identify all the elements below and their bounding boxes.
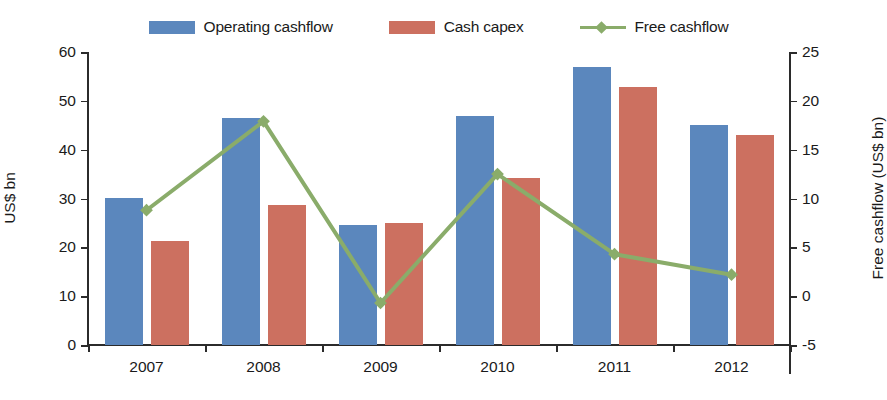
plot-area: 0102030405060 -50510152025 2007200820092… [88, 52, 790, 345]
right-tick-label: 20 [802, 92, 842, 110]
left-tick-mark [81, 52, 88, 54]
x-tick-label-2009: 2009 [363, 358, 397, 376]
legend-cash-capex[interactable]: Cash capex [389, 18, 524, 36]
left-tick-label: 10 [30, 287, 76, 305]
x-tick-mark [205, 345, 207, 352]
left-tick-mark [81, 150, 88, 152]
right-tick-mark [790, 52, 797, 54]
x-tick-label-2007: 2007 [129, 358, 163, 376]
x-tick-label-2011: 2011 [598, 358, 631, 376]
x-tick-mark [322, 345, 324, 352]
legend-swatch-icon [149, 21, 195, 34]
legend-item-label: Operating cashflow [204, 18, 333, 36]
legend-swatch-icon [389, 21, 435, 34]
x-tick-label-2012: 2012 [714, 358, 748, 376]
right-tick-mark [790, 150, 797, 152]
legend-line-marker-icon [580, 21, 626, 34]
x-tick-mark [790, 345, 792, 352]
x-tick-label-2008: 2008 [246, 358, 280, 376]
left-tick-label: 40 [30, 141, 76, 159]
right-tick-label: 25 [802, 43, 842, 61]
chart-legend: Operating cashflowCash capexFree cashflo… [0, 14, 877, 40]
x-tick-label-2010: 2010 [480, 358, 514, 376]
legend-item-label: Cash capex [444, 18, 524, 36]
plot-surface: 0102030405060 -50510152025 2007200820092… [88, 52, 790, 345]
legend-operating-cashflow[interactable]: Operating cashflow [149, 18, 333, 36]
x-tick-mark [556, 345, 558, 352]
left-axis-title: US$ bn [1, 172, 19, 224]
left-tick-mark [81, 247, 88, 249]
left-tick-mark [81, 199, 88, 201]
left-tick-mark [81, 345, 88, 347]
left-tick-label: 0 [30, 336, 76, 354]
x-tick-mark [88, 345, 90, 352]
right-tick-label: 15 [802, 141, 842, 159]
left-tick-mark [81, 101, 88, 103]
legend-free-cashflow[interactable]: Free cashflow [580, 18, 729, 36]
left-tick-label: 50 [30, 92, 76, 110]
x-tick-mark [673, 345, 675, 352]
right-axis-title: Free cashflow (US$ bn) [869, 117, 887, 280]
legend-item-label: Free cashflow [635, 18, 729, 36]
right-tick-mark [790, 199, 797, 201]
right-tick-mark [790, 296, 797, 298]
right-tick-mark [790, 101, 797, 103]
left-tick-label: 30 [30, 190, 76, 208]
left-tick-mark [81, 296, 88, 298]
free-cashflow-line-series [88, 52, 790, 345]
x-tick-mark [439, 345, 441, 352]
free-cashflow-marker-2012[interactable] [725, 268, 738, 281]
free-cashflow-line [147, 121, 732, 303]
left-tick-label: 60 [30, 43, 76, 61]
right-tick-label: 0 [802, 287, 842, 305]
right-tick-label: 10 [802, 190, 842, 208]
left-tick-label: 20 [30, 238, 76, 256]
right-tick-label: 5 [802, 238, 842, 256]
right-tick-mark [790, 247, 797, 249]
right-tick-label: -5 [802, 336, 842, 354]
